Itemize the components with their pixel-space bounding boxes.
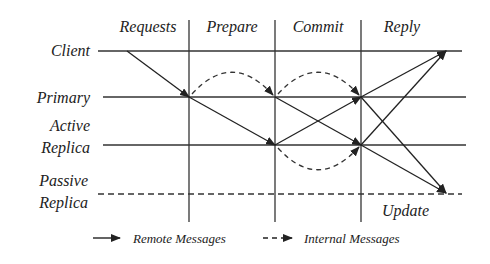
role-label-passive-2: Replica [38,194,88,212]
sequence-diagram: Requests Prepare Commit Reply Client Pri… [0,0,490,264]
phase-label-commit: Commit [293,18,344,35]
phase-label-prepare: Prepare [205,18,257,36]
role-label-active-2: Replica [40,139,90,157]
update-label: Update [382,202,429,220]
msg-primary-reply-client [361,51,446,97]
role-label-passive-1: Passive [38,172,88,189]
phase-label-reply: Reply [383,18,421,36]
role-label-primary: Primary [36,89,91,107]
legend-internal-label: Internal Messages [303,231,400,246]
remote-messages [127,51,446,193]
legend: Remote Messages Internal Messages [93,231,400,246]
msg-internal-active-commit [278,147,359,170]
msg-active-reply-client [361,51,446,145]
phase-label-requests: Requests [119,18,177,36]
role-label-active-1: Active [49,117,90,134]
msg-internal-primary-prepare [192,72,273,95]
msg-client-to-primary [127,51,189,97]
role-label-client: Client [51,42,91,59]
msg-internal-primary-commit [278,72,359,95]
msg-active-update-passive [361,145,446,193]
legend-remote-label: Remote Messages [132,231,226,246]
msg-primary-to-active-prepare [189,97,275,145]
